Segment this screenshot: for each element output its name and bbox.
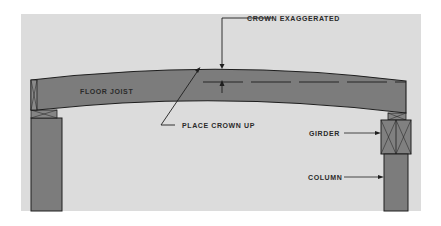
left-end-block: [31, 80, 37, 110]
crown-exaggerated-label: CROWN EXAGGERATED: [247, 15, 340, 22]
floor-joist-label: FLOOR JOIST: [80, 88, 133, 95]
girder: [381, 120, 411, 154]
column-label: COLUMN: [308, 174, 342, 181]
place-crown-up-label: PLACE CROWN UP: [182, 122, 255, 129]
panel-background: [21, 14, 421, 211]
right-column: [384, 154, 408, 211]
left-column: [31, 118, 62, 211]
crown-diagram: FLOOR JOIST CROWN EXAGGERATED PLACE CROW…: [0, 0, 441, 226]
right-seat-block: [388, 113, 406, 120]
left-seat-block: [31, 110, 57, 118]
girder-label: GIRDER: [309, 130, 340, 137]
